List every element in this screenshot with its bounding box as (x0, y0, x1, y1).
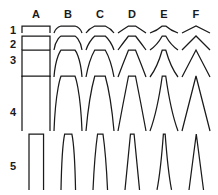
shape-c5 (93, 134, 108, 190)
shape-c4 (86, 76, 114, 131)
column-header-f: F (181, 8, 211, 20)
shape-f4 (182, 76, 210, 131)
shape-c1 (86, 26, 114, 33)
column-header-d: D (117, 8, 147, 20)
shape-outline (29, 134, 44, 190)
shape-outline (182, 76, 210, 131)
shape-outline (22, 26, 50, 33)
shape-e2 (150, 36, 178, 50)
shape-outline (118, 26, 146, 33)
shape-c2 (86, 36, 114, 50)
shape-d4 (118, 76, 146, 131)
shape-b3 (54, 50, 82, 77)
shape-outline (54, 76, 82, 131)
row-label-5: 5 (2, 160, 16, 172)
shape-outline (22, 50, 50, 77)
shape-a4 (22, 76, 50, 131)
shape-e3 (150, 50, 178, 77)
shape-f2 (182, 36, 210, 50)
column-header-b: B (53, 8, 83, 20)
shape-outline (22, 36, 50, 50)
column-header-c: C (85, 8, 115, 20)
shape-outline (118, 50, 146, 77)
shape-a2 (22, 36, 50, 50)
shape-outline (125, 134, 140, 190)
shape-e1 (150, 26, 178, 33)
shape-a3 (22, 50, 50, 77)
shape-d1 (118, 26, 146, 33)
row-label-3: 3 (2, 54, 16, 66)
shape-outline (182, 50, 210, 77)
column-header-e: E (149, 8, 179, 20)
shape-f3 (182, 50, 210, 77)
shape-outline (182, 26, 210, 33)
shape-a5 (29, 134, 44, 190)
shape-e5 (157, 134, 172, 190)
shape-matrix-figure: A B C D E F 1 2 3 4 5 (0, 0, 218, 195)
shape-outline (54, 36, 82, 50)
shape-outline (150, 26, 178, 33)
shape-outline (157, 134, 172, 190)
shape-outline (22, 76, 50, 131)
shape-d2 (118, 36, 146, 50)
shape-outline (118, 76, 146, 131)
shape-d3 (118, 50, 146, 77)
shape-outline (182, 36, 210, 50)
column-header-a: A (21, 8, 51, 20)
shape-c3 (86, 50, 114, 77)
shape-outline (189, 134, 204, 190)
shape-outline (86, 76, 114, 131)
shape-outline (61, 134, 76, 190)
shape-a1 (22, 26, 50, 33)
shape-b1 (54, 26, 82, 33)
shape-outline (54, 26, 82, 33)
shape-e4 (150, 76, 178, 131)
shape-f5 (189, 134, 204, 190)
shape-outline (54, 50, 82, 77)
shape-b2 (54, 36, 82, 50)
shape-outline (118, 36, 146, 50)
shape-d5 (125, 134, 140, 190)
row-label-1: 1 (2, 24, 16, 36)
row-label-4: 4 (2, 106, 16, 118)
shape-outline (150, 36, 178, 50)
shape-outline (150, 76, 178, 131)
shape-b5 (61, 134, 76, 190)
shape-outline (150, 50, 178, 77)
shape-b4 (54, 76, 82, 131)
shape-outline (86, 36, 114, 50)
shape-outline (86, 50, 114, 77)
row-label-2: 2 (2, 38, 16, 50)
shape-f1 (182, 26, 210, 33)
shape-outline (86, 26, 114, 33)
shape-outline (93, 134, 108, 190)
